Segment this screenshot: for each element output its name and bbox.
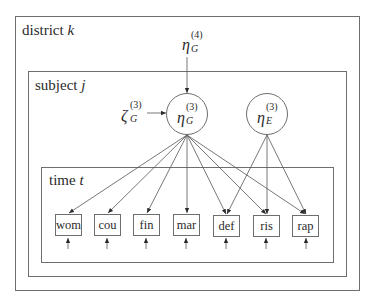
symbol: ζ — [121, 107, 127, 124]
latent-etaE3-circle — [247, 94, 288, 135]
symbol: η — [182, 36, 190, 53]
item-def: def — [213, 215, 240, 237]
subscript: G — [191, 44, 198, 54]
disturbance-zeta-G3: ζ (3) G — [121, 108, 127, 124]
subscript: G — [186, 116, 193, 126]
subscript: E — [266, 116, 272, 126]
item-mar: mar — [173, 214, 200, 236]
item-wom: wom — [55, 214, 82, 236]
symbol: η — [257, 109, 265, 126]
superscript: (3) — [266, 102, 278, 112]
superscript: (3) — [130, 100, 142, 110]
latent-eta-E3: η (3) E — [257, 110, 265, 126]
superscript: (4) — [191, 30, 203, 40]
latent-eta-G3: η (3) G — [177, 110, 185, 126]
superscript: (3) — [186, 102, 198, 112]
latent-eta-G4: η (4) G — [182, 37, 190, 53]
symbol: η — [177, 109, 185, 126]
subscript: G — [130, 114, 137, 124]
latent-etaG3-circle — [167, 94, 208, 135]
item-fin: fin — [133, 214, 160, 236]
item-rap: rap — [292, 215, 319, 237]
item-ris: ris — [253, 215, 280, 237]
item-cou: cou — [94, 214, 121, 236]
